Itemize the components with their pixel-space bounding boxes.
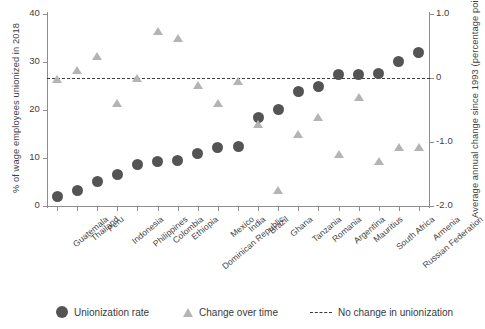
legend-item-no-change: No change in unionization (310, 307, 453, 318)
x-axis-tick (117, 207, 118, 211)
data-point-unionization-rate (192, 148, 203, 159)
data-point-unionization-rate (132, 159, 143, 170)
x-axis-tick (419, 207, 420, 211)
data-point-unionization-rate (393, 56, 404, 67)
data-point-unionization-rate (273, 104, 284, 115)
data-point-unionization-rate (112, 169, 123, 180)
x-axis-tick (399, 207, 400, 211)
y-axis-left-tick-label: 20 (14, 104, 40, 114)
data-point-unionization-rate (72, 185, 83, 196)
data-point-unionization-rate (313, 81, 324, 92)
data-point-change-over-time (112, 99, 122, 107)
data-point-change-over-time (253, 120, 263, 128)
x-axis-tick (238, 207, 239, 211)
y-axis-left-tick-label: 0 (14, 200, 40, 210)
x-axis-tick (359, 207, 360, 211)
x-axis-tick (258, 207, 259, 211)
dashed-line-marker-icon (310, 312, 332, 313)
y-axis-left-line (47, 12, 48, 208)
y-axis-left-tick-label: 10 (14, 152, 40, 162)
data-point-unionization-rate (212, 142, 223, 153)
data-point-unionization-rate (172, 155, 183, 166)
circle-marker-icon (56, 306, 68, 318)
x-axis-tick (97, 207, 98, 211)
x-axis-tick (379, 207, 380, 211)
y-axis-left-tick (43, 110, 47, 111)
data-point-change-over-time (213, 99, 223, 107)
data-point-unionization-rate (52, 191, 63, 202)
triangle-marker-icon (183, 308, 193, 317)
data-point-change-over-time (173, 34, 183, 42)
data-point-change-over-time (92, 52, 102, 60)
legend-label-no-change: No change in unionization (338, 307, 453, 318)
x-axis-label: Peru (106, 214, 126, 233)
y-axis-left-tick-label: 30 (14, 56, 40, 66)
x-axis-tick (198, 207, 199, 211)
data-point-change-over-time (233, 77, 243, 85)
data-point-unionization-rate (413, 47, 424, 58)
data-point-change-over-time (414, 143, 424, 151)
data-point-change-over-time (193, 81, 203, 89)
data-point-unionization-rate (293, 86, 304, 97)
y-axis-right-tick (430, 206, 434, 207)
y-axis-right-tick-label: 1.0 (436, 8, 466, 18)
legend-item-unionization-rate: Unionization rate (56, 306, 149, 318)
x-axis-tick (278, 207, 279, 211)
data-point-unionization-rate (233, 141, 244, 152)
legend-item-change-over-time: Change over time (183, 307, 278, 318)
y-axis-left-tick (43, 158, 47, 159)
data-point-change-over-time (394, 143, 404, 151)
data-point-change-over-time (334, 150, 344, 158)
y-axis-right-title: Average annual change since 1993 (percen… (470, 0, 480, 218)
y-axis-left-tick (43, 14, 47, 15)
data-point-change-over-time (313, 113, 323, 121)
data-point-change-over-time (273, 186, 283, 194)
y-axis-left-tick-label: 40 (14, 8, 40, 18)
data-point-unionization-rate (152, 156, 163, 167)
data-point-change-over-time (354, 93, 364, 101)
y-axis-right-tick-label: 0 (436, 72, 466, 82)
y-axis-left-tick (43, 206, 47, 207)
x-axis-tick (77, 207, 78, 211)
y-axis-right-tick-label: -1.0 (436, 136, 466, 146)
y-axis-right-tick (430, 142, 434, 143)
y-axis-right-tick (430, 78, 434, 79)
x-axis-tick (178, 207, 179, 211)
y-axis-right-tick (430, 14, 434, 15)
data-point-change-over-time (153, 27, 163, 35)
x-axis-tick (298, 207, 299, 211)
data-point-change-over-time (52, 75, 62, 83)
y-axis-left-tick (43, 62, 47, 63)
y-axis-right-tick-label: -2.0 (436, 200, 466, 210)
x-axis-tick (137, 207, 138, 211)
x-axis-tick (339, 207, 340, 211)
data-point-change-over-time (374, 157, 384, 165)
data-point-change-over-time (293, 130, 303, 138)
y-axis-right-line (429, 12, 430, 208)
x-axis-tick (158, 207, 159, 211)
data-point-change-over-time (132, 74, 142, 82)
data-point-unionization-rate (333, 69, 344, 80)
chart-legend: Unionization rate Change over time No ch… (56, 306, 453, 318)
data-point-change-over-time (72, 66, 82, 74)
x-axis-tick (218, 207, 219, 211)
data-point-unionization-rate (92, 176, 103, 187)
x-axis-tick (318, 207, 319, 211)
x-axis-tick (57, 207, 58, 211)
x-axis-label: Brazil (267, 214, 290, 236)
legend-label-unionization-rate: Unionization rate (74, 307, 149, 318)
data-point-unionization-rate (373, 68, 384, 79)
legend-label-change-over-time: Change over time (199, 307, 278, 318)
